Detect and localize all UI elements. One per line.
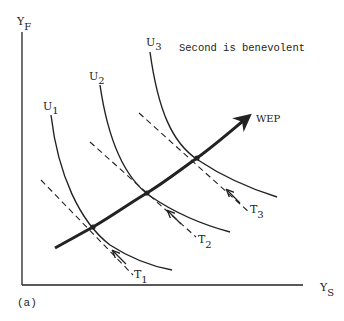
curve-u2-label: U2 — [89, 70, 105, 86]
wep-path — [55, 116, 249, 248]
diagram-title: Second is benevolent — [179, 42, 305, 54]
panel-label: (a) — [17, 297, 37, 309]
curve-u1-label: U1 — [43, 100, 59, 116]
arrow-t3-icon — [227, 190, 240, 203]
welfare-diagram: YF YS (a) Second is benevolent U1 U2 U3 … — [0, 0, 344, 321]
tangent-t3-label: T3 — [250, 203, 264, 220]
axes — [22, 32, 303, 285]
indifference-curves — [51, 52, 277, 270]
wep-label: WEP — [256, 113, 281, 124]
tangent-t2-label: T2 — [198, 233, 212, 250]
x-axis-label: YS — [319, 281, 334, 298]
tangency-point-1 — [90, 224, 95, 229]
tangency-point-3 — [194, 155, 199, 160]
curve-u3 — [150, 52, 277, 197]
tangent-t1 — [41, 180, 133, 275]
tangent-t1-label: T1 — [134, 268, 148, 285]
curve-u3-label: U3 — [146, 36, 162, 52]
y-axis-label: YF — [16, 15, 31, 32]
tangency-point-2 — [144, 190, 149, 195]
